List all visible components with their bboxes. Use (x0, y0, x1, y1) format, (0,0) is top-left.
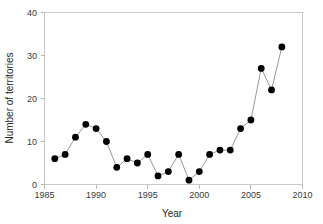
x-tick-label-2010: 2010 (292, 190, 312, 200)
y-axis-title: Number of territories (4, 52, 15, 143)
x-axis-ticks (45, 185, 303, 189)
data-point (155, 173, 162, 180)
x-tick-label-2005: 2005 (241, 190, 261, 200)
y-tick-label-0: 0 (32, 180, 37, 190)
data-point (175, 151, 182, 158)
data-point (93, 125, 100, 132)
x-tick-label-1995: 1995 (138, 190, 158, 200)
x-tick-label-1985: 1985 (34, 190, 54, 200)
data-point (237, 125, 244, 132)
data-point (206, 151, 213, 158)
data-point (217, 147, 224, 154)
series-markers-territories (51, 44, 285, 184)
line-chart: 0 10 20 30 40 1985 1990 1995 2000 2005 2… (0, 0, 323, 224)
x-tick-label-1990: 1990 (86, 190, 106, 200)
y-axis-ticks (41, 13, 45, 185)
y-tick-label-30: 30 (27, 51, 37, 61)
data-point (113, 164, 120, 171)
y-tick-label-10: 10 (27, 137, 37, 147)
x-axis-tick-labels: 1985 1990 1995 2000 2005 2010 (34, 190, 312, 200)
data-point (268, 87, 275, 94)
y-axis-tick-labels: 0 10 20 30 40 (27, 8, 37, 190)
x-tick-label-2000: 2000 (189, 190, 209, 200)
chart-container: 0 10 20 30 40 1985 1990 1995 2000 2005 2… (0, 0, 323, 224)
data-point (248, 117, 255, 124)
data-point (144, 151, 151, 158)
data-point (165, 168, 172, 175)
x-axis-title: Year (162, 208, 183, 219)
data-point (72, 134, 79, 141)
data-point (134, 160, 141, 167)
y-tick-label-40: 40 (27, 8, 37, 18)
data-point (196, 168, 203, 175)
series-line-territories (55, 47, 282, 180)
data-point (51, 155, 58, 162)
data-point (62, 151, 69, 158)
data-point (258, 65, 265, 72)
data-point (227, 147, 234, 154)
data-point (278, 44, 285, 51)
data-point (82, 121, 89, 128)
y-tick-label-20: 20 (27, 94, 37, 104)
data-point (103, 138, 110, 145)
data-point (186, 177, 193, 184)
data-point (124, 155, 131, 162)
